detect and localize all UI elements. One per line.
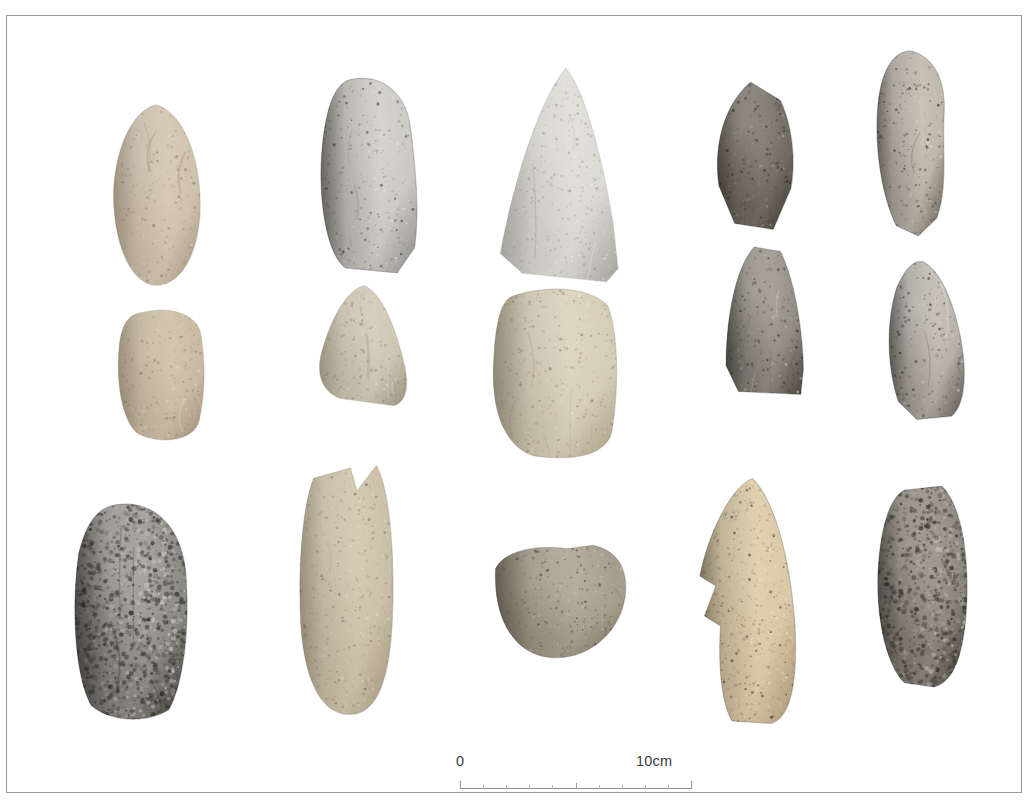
artifact-granular-triangle-pale: [312, 283, 412, 407]
scale-tick: [691, 783, 692, 789]
artifact-granite-speckled-adze: [69, 500, 191, 723]
artifact-large-pointed-adze-pale: [494, 66, 622, 284]
scale-tick: [552, 785, 553, 789]
scale-zero-label: 0: [456, 753, 464, 769]
artifact-sandstone-teardrop-notch: [686, 476, 801, 726]
scale-tick: [599, 785, 600, 789]
artifact-dark-speckled-flake: [710, 79, 798, 231]
artifact-flaked-grey-white-core: [880, 259, 972, 421]
scale-bar: 0 10cm: [456, 753, 701, 799]
scale-tick: [529, 785, 530, 789]
artifact-bowl-fragment-grey: [487, 543, 630, 659]
scale-tick: [483, 785, 484, 789]
artifact-rounded-block-tan: [112, 307, 208, 444]
figure-plate: 0 10cm: [6, 15, 1022, 793]
scale-ruler: [460, 779, 692, 792]
artifact-adze-grey-white-butt: [313, 74, 421, 274]
scale-tick: [506, 785, 507, 789]
scale-tick: [576, 783, 577, 789]
scale-tick: [668, 785, 669, 789]
artifact-elongated-flake-dark-edge: [865, 49, 957, 237]
artifact-oval-adze-tan: [107, 102, 205, 288]
scale-tick: [460, 783, 461, 789]
scale-tick: [622, 785, 623, 789]
scale-tick: [645, 785, 646, 789]
artifact-rough-dark-core: [869, 484, 973, 689]
artifact-grey-trapezoid-dark-streak: [719, 244, 807, 396]
artifact-granular-column-tan: [290, 463, 398, 717]
artifact-cream-block-translucent: [488, 284, 621, 461]
scale-max-label: 10cm: [636, 753, 672, 769]
